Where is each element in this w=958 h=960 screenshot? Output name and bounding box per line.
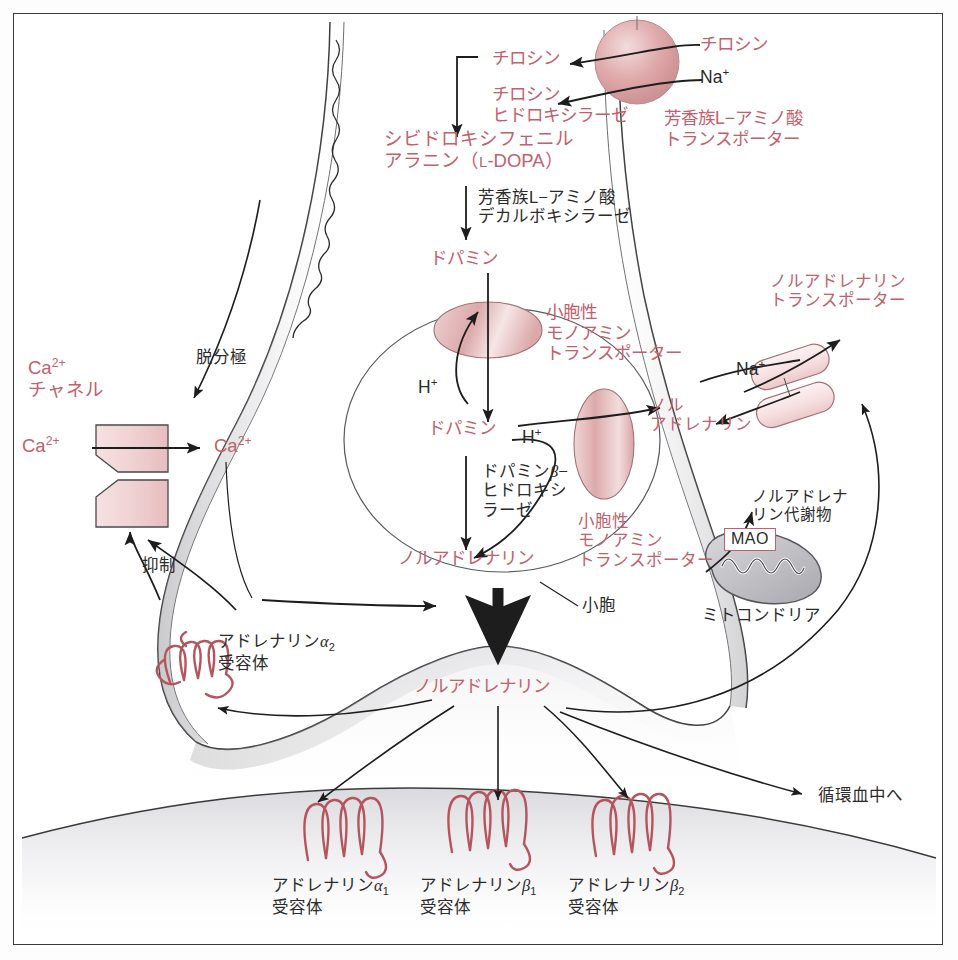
label-vmat-top: 小胞性 モノアミン トランスポーター bbox=[546, 302, 682, 364]
label-l-dopa: シビドロキシフェニル アラニン（L-DOPA） bbox=[384, 128, 574, 172]
label-tyrosine-hydroxylase: チロシン ヒドロキシラーゼ bbox=[492, 84, 628, 125]
label-vmat-bottom: 小胞性 モノアミン トランスポーター bbox=[578, 512, 714, 570]
label-beta1-receptor: アドレナリンβ1 受容体 bbox=[420, 876, 536, 918]
label-calcium-inside: Ca2+ bbox=[214, 434, 252, 457]
calcium-channel[interactable] bbox=[96, 425, 168, 527]
label-dopamine-cytosol: ドパミン bbox=[430, 248, 498, 269]
label-noradrenaline-metabolite: ノルアドレナ リン代謝物 bbox=[752, 488, 848, 525]
label-proton-top: H+ bbox=[418, 376, 437, 397]
label-dopamine-beta-hydroxylase: ドパミンβ− ヒドロキシ ラーゼ bbox=[482, 462, 568, 520]
figure-canvas: チロシン Na+ チロシン チロシン ヒドロキシラーゼ 芳香族L−アミノ酸 トラ… bbox=[0, 0, 958, 960]
label-inhibition: 抑制 bbox=[142, 556, 176, 575]
label-mao-enzyme: MAO bbox=[724, 528, 776, 551]
label-depolarization: 脱分極 bbox=[196, 348, 247, 367]
label-to-circulation: 循環血中へ bbox=[818, 786, 903, 805]
label-calcium-outside: Ca2+ bbox=[22, 434, 60, 457]
label-proton-right: H+ bbox=[522, 426, 541, 447]
label-tyrosine-extracellular: チロシン bbox=[700, 34, 768, 55]
label-sodium-extracellular: Na+ bbox=[700, 66, 729, 87]
label-sodium-net: Na+ bbox=[736, 358, 765, 379]
label-noradrenaline-transporter: ノルアドレナリン トランスポーター bbox=[770, 272, 906, 311]
label-dopamine-vesicle: ドパミン bbox=[428, 418, 496, 439]
vesicular-monoamine-transporter-right[interactable] bbox=[574, 389, 634, 499]
label-noradrenaline-net: ノル アドレナリン bbox=[650, 396, 752, 435]
label-noradrenaline-vesicle: ノルアドレナリン bbox=[398, 548, 534, 569]
label-aromatic-amino-acid-transporter: 芳香族L−アミノ酸 トランスポーター bbox=[664, 108, 803, 149]
label-vesicle: 小胞 bbox=[582, 596, 616, 615]
label-alpha2-receptor: アドレナリンα2 受容体 bbox=[218, 632, 335, 674]
label-beta2-receptor: アドレナリンβ2 受容体 bbox=[568, 876, 684, 918]
noradrenaline-transporter[interactable] bbox=[748, 340, 838, 431]
label-tyrosine-intracellular: チロシン bbox=[492, 48, 560, 69]
label-alpha1-receptor: アドレナリンα1 受容体 bbox=[272, 876, 389, 918]
label-noradrenaline-cleft: ノルアドレナリン bbox=[414, 676, 550, 697]
label-mitochondria: ミトコンドリア bbox=[702, 606, 821, 625]
label-calcium-channel: Ca2+ チャネル bbox=[28, 356, 104, 401]
label-aromatic-amino-acid-decarboxylase: 芳香族L−アミノ酸 デカルボキシラーゼ bbox=[478, 188, 631, 227]
postsynaptic-cell bbox=[22, 788, 936, 944]
